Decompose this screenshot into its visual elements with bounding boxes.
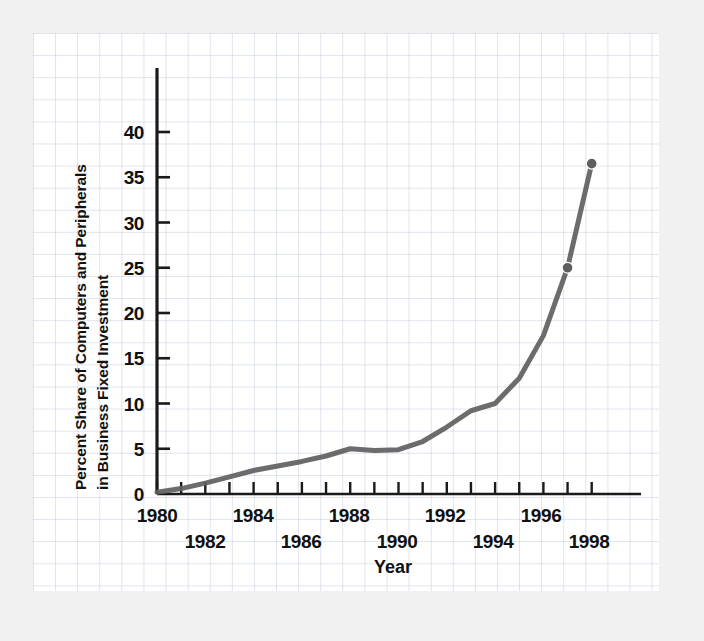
chart-plot-area [0,0,704,641]
axes-group [157,68,641,494]
chart-page: Percent Share of Computers and Periphera… [0,0,704,641]
data-line [157,164,592,493]
data-point-marker [586,158,597,169]
data-series-group [157,164,592,493]
data-point-marker [562,262,573,273]
